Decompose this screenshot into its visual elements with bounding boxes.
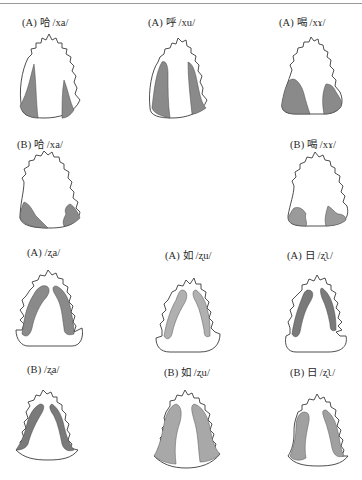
palatogram-r1c2 [140, 30, 215, 122]
palatogram-r4c1 [12, 380, 82, 462]
figure-caption-cropped [140, 474, 270, 480]
panel-label-r4c2: (B) 如 /ʐu/ [164, 364, 210, 379]
panel-label-r1c3: (A) 喝 /xɤ/ [279, 14, 326, 29]
palatogram-r4c3 [284, 384, 354, 468]
palatogram-r4c2 [150, 384, 228, 470]
panel-label-r1c2: (A) 呼 /xu/ [148, 14, 195, 29]
palatogram-r3c1 [12, 260, 87, 348]
panel-label-r4c1: (B) /ʐa/ [27, 364, 60, 375]
panel-label-r3c3: (A) 日 /ʐʅ/ [287, 247, 333, 262]
panel-label-r3c2: (A) 如 /ʐu/ [165, 247, 212, 262]
palatogram-r1c1 [14, 30, 84, 122]
panel-label-r1c1: (A) 哈 /xa/ [22, 14, 69, 29]
panel-label-r4c3: (B) 日 /ʐʅ/ [290, 364, 335, 379]
palatogram-r2c1 [14, 148, 84, 230]
palatogram-r3c3 [280, 266, 355, 354]
palatogram-r1c3 [274, 28, 354, 120]
top-rule [0, 3, 362, 4]
palatogram-r3c2 [152, 268, 227, 356]
panel-label-r3c1: (A) /ʐa/ [27, 247, 60, 258]
palatogram-r2c3 [282, 148, 354, 230]
